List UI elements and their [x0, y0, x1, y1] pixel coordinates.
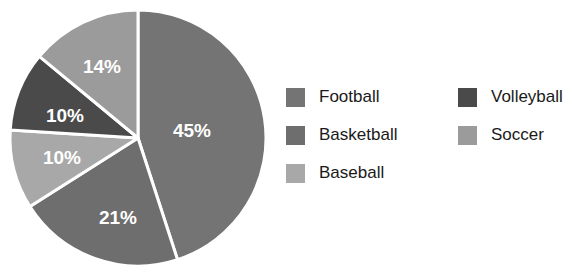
legend-swatch-icon: [458, 126, 477, 145]
pie-chart-figure: 45%21%10%10%14% Football Basketball Base…: [0, 0, 588, 278]
legend-item-label: Football: [319, 87, 379, 107]
legend-swatch-icon: [458, 88, 477, 107]
legend-item-label: Basketball: [319, 125, 397, 145]
chart-legend: Football Basketball Baseball Volleyball …: [286, 78, 586, 208]
legend-column-left: Football Basketball Baseball: [286, 78, 458, 192]
pie-slice-value-label: 10%: [43, 147, 81, 168]
pie-slice-value-label: 10%: [46, 105, 84, 126]
legend-item-volleyball[interactable]: Volleyball: [458, 78, 586, 116]
pie-slice-value-label: 45%: [173, 120, 211, 141]
pie-slice-value-label: 14%: [83, 56, 121, 77]
legend-swatch-icon: [286, 126, 305, 145]
legend-item-baseball[interactable]: Baseball: [286, 154, 458, 192]
legend-column-right: Volleyball Soccer: [458, 78, 586, 154]
pie-chart-graphic: 45%21%10%10%14%: [6, 6, 270, 272]
legend-item-label: Baseball: [319, 163, 384, 183]
legend-item-basketball[interactable]: Basketball: [286, 116, 458, 154]
legend-item-football[interactable]: Football: [286, 78, 458, 116]
pie-svg: 45%21%10%10%14%: [6, 6, 270, 272]
legend-item-label: Volleyball: [491, 87, 563, 107]
legend-item-soccer[interactable]: Soccer: [458, 116, 586, 154]
legend-swatch-icon: [286, 88, 305, 107]
legend-swatch-icon: [286, 164, 305, 183]
pie-slice-group: [10, 10, 266, 266]
pie-slice-value-label: 21%: [99, 207, 137, 228]
legend-item-label: Soccer: [491, 125, 544, 145]
